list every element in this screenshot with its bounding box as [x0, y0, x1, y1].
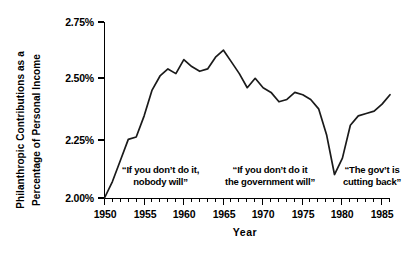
annotation-1950s-line-1: “If you don’t do it,	[108, 164, 213, 176]
x-tick-label-1960: 1960	[164, 208, 204, 220]
y-axis-ticks	[98, 22, 104, 198]
x-tick-label-1980: 1980	[322, 208, 362, 220]
annotation-1950s: “If you don’t do it, nobody will”	[108, 164, 213, 187]
annotation-1950s-line-2: nobody will”	[108, 176, 213, 188]
annotation-1960s: “If you don’t do it the government will”	[216, 164, 324, 187]
annotation-1980s: “The gov’t is cutting back”	[327, 164, 417, 187]
x-axis-title: Year	[200, 226, 290, 238]
annotation-1960s-line-2: the government will”	[216, 176, 324, 188]
annotation-1980s-line-2: cutting back”	[327, 176, 417, 188]
x-tick-label-1965: 1965	[204, 208, 244, 220]
annotation-1960s-line-1: “If you don’t do it	[216, 164, 324, 176]
annotation-1980s-line-1: “The gov’t is	[327, 164, 417, 176]
chart-figure: Philanthropic Contributions as a Percent…	[0, 0, 420, 257]
x-tick-label-1950: 1950	[85, 208, 125, 220]
x-tick-label-1975: 1975	[283, 208, 323, 220]
x-tick-label-1955: 1955	[125, 208, 165, 220]
x-tick-label-1970: 1970	[243, 208, 283, 220]
x-tick-label-1985: 1985	[362, 208, 402, 220]
